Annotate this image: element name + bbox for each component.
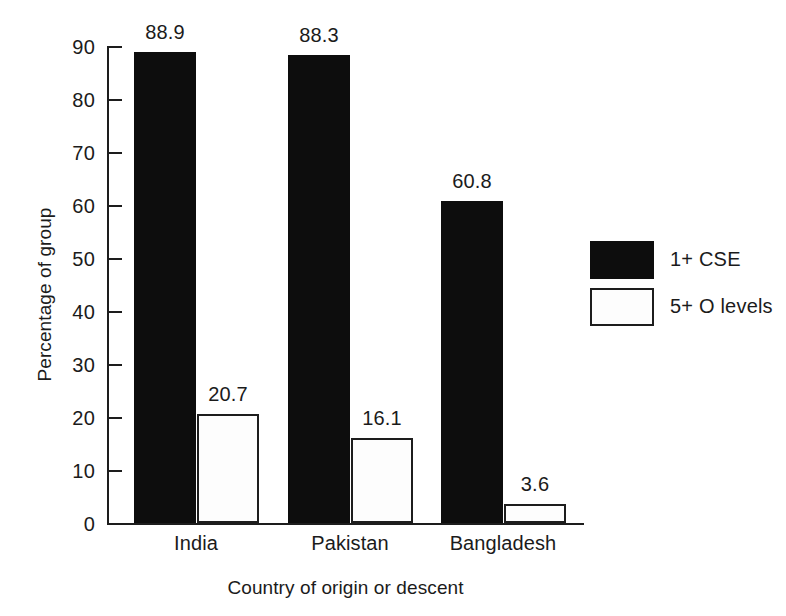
- bar-value-bangladesh-5plus-o-levels: 3.6: [455, 474, 615, 494]
- y-tick-label-70: 70: [51, 143, 95, 163]
- y-tick-mark-10: [109, 470, 122, 472]
- y-tick-mark-20: [109, 417, 122, 419]
- y-tick-mark-70: [109, 152, 122, 154]
- bar-pakistan-1plus-cse: [288, 55, 350, 523]
- y-tick-label-0: 0: [51, 514, 95, 534]
- bar-india-1plus-cse: [134, 52, 196, 523]
- y-tick-mark-80: [109, 99, 122, 101]
- y-tick-label-20-wrap: 20: [51, 408, 95, 428]
- y-tick-label-50-wrap: 50: [51, 249, 95, 269]
- x-axis-title: Country of origin or descent: [107, 578, 584, 597]
- bar-value-india-5plus-o-levels: 20.7: [148, 384, 308, 404]
- y-tick-label-0-wrap: 0: [51, 514, 95, 534]
- y-tick-label-70-wrap: 70: [51, 143, 95, 163]
- y-tick-mark-90: [109, 46, 122, 48]
- y-axis-title: Percentage of group: [35, 145, 54, 445]
- y-tick-label-10: 10: [51, 461, 95, 481]
- x-tick-label-bangladesh: Bangladesh: [403, 532, 603, 554]
- bar-pakistan-5plus-o-levels: [351, 438, 413, 523]
- bar-chart: Percentage of group 90 80 70 60 50 40 30…: [0, 0, 786, 616]
- y-tick-label-40: 40: [51, 302, 95, 322]
- legend-label-5plus-o-levels: 5+ O levels: [670, 295, 773, 317]
- bar-india-5plus-o-levels: [197, 414, 259, 523]
- y-tick-mark-60: [109, 205, 122, 207]
- legend-swatch-5plus-o-levels: [590, 288, 654, 326]
- y-tick-mark-50: [109, 258, 122, 260]
- bar-value-india-1plus-cse: 88.9: [85, 22, 245, 42]
- y-tick-label-60: 60: [51, 196, 95, 216]
- y-tick-label-60-wrap: 60: [51, 196, 95, 216]
- bar-value-pakistan-1plus-cse: 88.3: [239, 25, 399, 45]
- y-tick-label-10-wrap: 10: [51, 461, 95, 481]
- x-axis-spine: [107, 523, 584, 525]
- bar-bangladesh-5plus-o-levels: [504, 504, 566, 523]
- y-tick-mark-30: [109, 364, 122, 366]
- bar-value-pakistan-5plus-o-levels: 16.1: [302, 408, 462, 428]
- y-tick-label-20: 20: [51, 408, 95, 428]
- legend-label-1plus-cse: 1+ CSE: [670, 248, 741, 270]
- y-tick-label-50: 50: [51, 249, 95, 269]
- y-tick-label-80-wrap: 80: [51, 90, 95, 110]
- y-tick-label-30-wrap: 30: [51, 355, 95, 375]
- legend-swatch-1plus-cse: [590, 241, 654, 279]
- y-tick-mark-40: [109, 311, 122, 313]
- bar-value-bangladesh-1plus-cse: 60.8: [392, 171, 552, 191]
- y-axis-spine: [107, 46, 109, 525]
- y-tick-label-40-wrap: 40: [51, 302, 95, 322]
- y-tick-label-80: 80: [51, 90, 95, 110]
- y-tick-label-30: 30: [51, 355, 95, 375]
